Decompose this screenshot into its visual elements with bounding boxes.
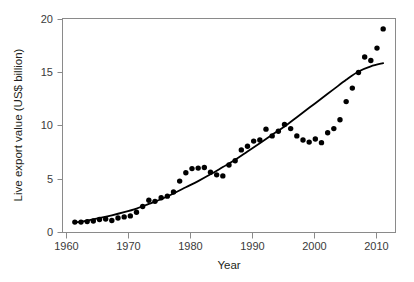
data-point: [282, 122, 287, 127]
x-tick-label-1960: 1960: [54, 240, 78, 252]
data-point: [109, 218, 114, 223]
y-tick-label-5: 5: [47, 173, 53, 185]
data-point: [294, 133, 299, 138]
data-point: [232, 158, 237, 163]
x-tick-label-1990: 1990: [240, 240, 264, 252]
data-point: [214, 172, 219, 177]
data-point: [177, 178, 182, 183]
y-axis-title: Live export value (US$ billion): [12, 48, 24, 201]
y-axis-tick-labels: 0 5 10 15 20: [41, 13, 53, 238]
data-point: [158, 195, 163, 200]
scatter-plot-svg: 0 5 10 15 20 1960 1970 1980 1990 2000 20…: [0, 0, 414, 282]
data-point: [226, 162, 231, 167]
data-point: [189, 166, 194, 171]
data-point: [251, 138, 256, 143]
data-point: [380, 26, 385, 31]
data-point: [146, 198, 151, 203]
data-point: [152, 199, 157, 204]
data-point: [374, 45, 379, 50]
y-axis-ticks: [58, 20, 63, 233]
data-point: [97, 217, 102, 222]
data-point: [368, 58, 373, 63]
y-tick-label-10: 10: [41, 119, 53, 131]
data-point: [276, 129, 281, 134]
x-axis-ticks: [67, 233, 377, 239]
data-point: [325, 130, 330, 135]
data-point: [72, 219, 77, 224]
y-tick-label-15: 15: [41, 66, 53, 78]
x-tick-label-2000: 2000: [302, 240, 326, 252]
data-point: [165, 193, 170, 198]
data-point: [220, 173, 225, 178]
data-point: [121, 214, 126, 219]
data-point: [103, 216, 108, 221]
data-point: [183, 170, 188, 175]
data-point: [288, 126, 293, 131]
data-point: [319, 140, 324, 145]
data-point: [350, 85, 355, 90]
data-points-group: [72, 26, 386, 225]
data-point: [202, 165, 207, 170]
data-point: [257, 137, 262, 142]
data-point: [91, 218, 96, 223]
x-axis-tick-labels: 1960 1970 1980 1990 2000 2010: [54, 240, 388, 252]
trend-line: [75, 63, 383, 222]
x-tick-label-2010: 2010: [364, 240, 388, 252]
data-point: [208, 170, 213, 175]
x-tick-label-1970: 1970: [116, 240, 140, 252]
data-point: [115, 215, 120, 220]
data-point: [263, 126, 268, 131]
data-point: [195, 165, 200, 170]
data-point: [84, 219, 89, 224]
plot-frame: [63, 19, 396, 233]
x-axis-title: Year: [217, 259, 240, 271]
data-point: [356, 70, 361, 75]
data-point: [239, 147, 244, 152]
data-point: [269, 133, 274, 138]
data-point: [245, 144, 250, 149]
data-point: [337, 117, 342, 122]
data-point: [78, 219, 83, 224]
chart-figure: 0 5 10 15 20 1960 1970 1980 1990 2000 20…: [0, 0, 414, 282]
data-point: [313, 136, 318, 141]
data-point: [140, 204, 145, 209]
data-point: [306, 139, 311, 144]
data-point: [331, 126, 336, 131]
y-tick-label-0: 0: [47, 226, 53, 238]
data-point: [343, 99, 348, 104]
data-point: [128, 213, 133, 218]
data-point: [362, 54, 367, 59]
data-point: [134, 210, 139, 215]
y-tick-label-20: 20: [41, 13, 53, 25]
data-point: [300, 137, 305, 142]
data-point: [171, 189, 176, 194]
x-tick-label-1980: 1980: [178, 240, 202, 252]
